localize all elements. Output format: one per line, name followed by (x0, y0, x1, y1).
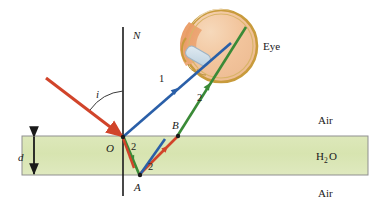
label-water-h: H (316, 150, 324, 162)
physics-diagram-figure: N i d O A B 1 2 2 2 Eye Air H 2 O Air (0, 0, 390, 220)
label-point-b: B (172, 119, 179, 131)
label-angle-i: i (96, 88, 99, 100)
label-thickness-d: d (18, 151, 24, 163)
point-a-dot (138, 173, 142, 177)
point-o-dot (121, 135, 125, 139)
diagram-canvas: N i d O A B 1 2 2 2 Eye Air H 2 O Air (0, 0, 390, 220)
label-ray-1: 1 (159, 73, 164, 84)
label-eye: Eye (263, 40, 280, 52)
label-water-sub: 2 (324, 156, 328, 165)
label-normal: N (132, 29, 141, 41)
label-point-a: A (133, 181, 141, 193)
angle-of-incidence-arc (90, 91, 123, 110)
label-ray-2: 2 (197, 92, 202, 103)
label-water-o: O (329, 150, 337, 162)
incident-ray (46, 78, 122, 136)
label-medium-air-top: Air (318, 114, 333, 126)
label-ray-2-inside-lower: 2 (148, 161, 153, 172)
label-medium-air-bottom: Air (318, 187, 333, 199)
label-point-o: O (106, 142, 114, 154)
label-ray-2-inside-upper: 2 (131, 141, 136, 152)
point-b-dot (176, 134, 180, 138)
